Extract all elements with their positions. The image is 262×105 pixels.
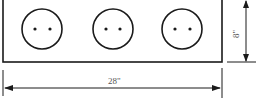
arrow-left-icon — [4, 85, 13, 91]
outlet-1 — [22, 9, 62, 49]
outlet-hole — [173, 27, 176, 30]
height-dimension: 8" — [227, 0, 256, 62]
width-label: 28" — [108, 76, 121, 86]
height-label: 8" — [231, 30, 241, 39]
outlet-hole — [33, 27, 36, 30]
outlet-hole — [48, 27, 51, 30]
panel-diagram: 28" 8" — [0, 0, 262, 105]
outlet-hole — [118, 27, 121, 30]
outlet-hole — [104, 27, 107, 30]
arrow-up-icon — [243, 0, 249, 8]
outlet-hole — [188, 27, 191, 30]
width-dimension: 28" — [3, 68, 222, 98]
arrow-right-icon — [212, 85, 221, 91]
arrow-down-icon — [243, 54, 249, 62]
outlet-3 — [162, 9, 202, 49]
outlet-2 — [93, 9, 133, 49]
